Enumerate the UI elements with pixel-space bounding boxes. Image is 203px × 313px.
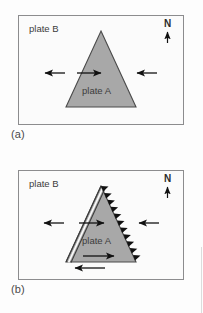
compass-north-label: N <box>164 18 171 29</box>
panel-b-caption: (b) <box>11 283 25 295</box>
compass-north-label: N <box>164 173 171 184</box>
panel-b-graphic: plate B plate A N <box>9 161 194 307</box>
plate-a-label: plate A <box>82 85 112 96</box>
panel-a: plate B plate A N (a) <box>9 6 194 151</box>
plate-a-label: plate A <box>82 235 112 246</box>
panel-a-caption: (a) <box>11 128 25 140</box>
panel-a-graphic: plate B plate A N <box>9 6 194 152</box>
plate-b-label: plate B <box>29 178 59 189</box>
panel-b: plate B plate A N (b) <box>9 161 194 307</box>
figure-container: plate B plate A N (a) <box>0 0 203 313</box>
page-edge-artifact <box>201 247 202 313</box>
plate-b-label: plate B <box>29 23 59 34</box>
